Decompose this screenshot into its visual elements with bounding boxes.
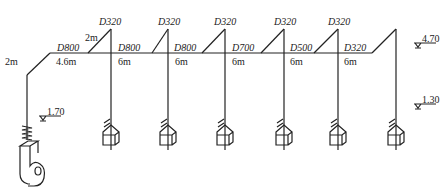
elevation-hoods: 1.30 [422,95,440,105]
main-duct-diameter-4: D700 [232,43,254,53]
branch-length-label: 2m [85,33,98,43]
main-duct-diameter-6: D320 [344,43,366,53]
main-duct-length-1: 4.6m [56,57,76,67]
riser-length-label: 2m [5,57,18,67]
main-duct-length-5: 6m [290,57,303,67]
main-duct-length-3: 6m [175,57,188,67]
main-duct-diameter-3: D800 [174,43,196,53]
main-duct-diameter-5: D500 [290,43,312,53]
branch-diameter-2: D320 [158,17,180,27]
branch-diameter-4: D320 [274,17,296,27]
main-duct-diameter-1: D800 [57,43,79,53]
main-duct-length-2: 6m [118,57,131,67]
exhaust-hood-icon [102,118,122,146]
duct-lines [0,0,447,193]
main-duct-length-6: 6m [344,57,357,67]
main-duct-length-4: 6m [232,57,245,67]
elevation-fan: 1.70 [47,107,65,117]
branch-diameter-1: D320 [99,17,121,27]
branch-diameter-5: D320 [328,17,350,27]
centrifugal-fan-icon [18,140,46,188]
branch-diameter-3: D320 [214,17,236,27]
elevation-top: 4.70 [422,34,440,44]
duct-system-diagram: 2m D800 4.6m 2m D800 6m D800 6m D700 6m … [0,0,447,193]
main-duct-diameter-2: D800 [118,43,140,53]
